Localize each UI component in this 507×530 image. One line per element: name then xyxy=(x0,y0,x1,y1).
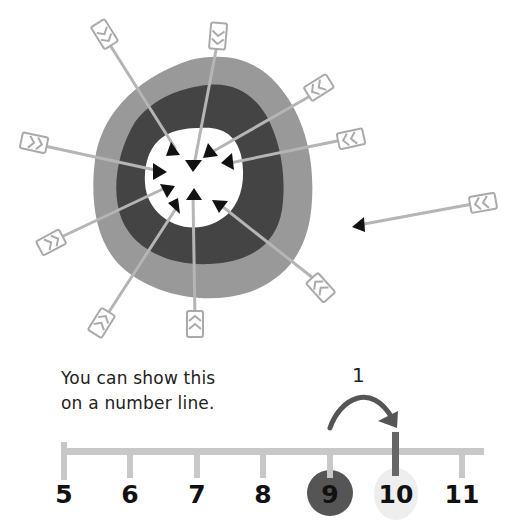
tick-6 xyxy=(127,452,133,478)
number-label-6: 6 xyxy=(105,480,155,509)
number-label-11: 11 xyxy=(437,480,487,509)
archery-target xyxy=(93,57,312,299)
number-label-8: 8 xyxy=(238,480,288,509)
tick-11 xyxy=(459,452,465,478)
illustration xyxy=(0,0,507,530)
number-line-bar xyxy=(62,448,484,455)
tick-5 xyxy=(61,442,67,480)
number-label-10: 10 xyxy=(371,480,421,509)
caption-line-1: You can show this xyxy=(61,366,261,391)
tick-8 xyxy=(260,452,266,478)
arrowhead-icon xyxy=(352,217,365,232)
jump-arc xyxy=(330,397,392,428)
tick-9 xyxy=(327,452,333,478)
caption: You can show this on a number line. xyxy=(61,366,261,416)
jump-label: 1 xyxy=(352,363,365,387)
number-label-9: 9 xyxy=(305,480,355,509)
tick-7 xyxy=(194,452,200,478)
caption-line-2: on a number line. xyxy=(61,391,261,416)
number-label-7: 7 xyxy=(172,480,222,509)
number-label-5: 5 xyxy=(39,480,89,509)
tick-10 xyxy=(392,432,399,476)
